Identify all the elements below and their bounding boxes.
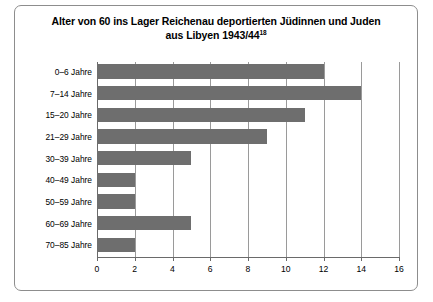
bar-40-49 — [97, 173, 135, 188]
chart-title-footnote: 18 — [259, 29, 266, 36]
bar-row — [97, 105, 399, 127]
bar-row — [97, 192, 399, 214]
bar-50-59 — [97, 194, 135, 209]
x-tickmark-12 — [324, 257, 325, 261]
bar-row — [97, 84, 399, 106]
bar-60-69 — [97, 216, 191, 231]
bar-0-6 — [97, 64, 324, 79]
bar-row — [97, 62, 399, 84]
gridline-16 — [399, 62, 400, 257]
y-axis-tick-labels: 0–6 Jahre7–14 Jahre15–20 Jahre21–29 Jahr… — [14, 62, 92, 257]
plot-area — [97, 62, 399, 257]
y-tick-label: 40–49 Jahre — [14, 175, 92, 185]
x-tick-label: 0 — [95, 264, 100, 274]
x-tickmark-14 — [361, 257, 362, 261]
x-tick-label: 12 — [319, 264, 329, 274]
x-tickmark-8 — [248, 257, 249, 261]
x-tickmark-6 — [210, 257, 211, 261]
x-tickmark-10 — [286, 257, 287, 261]
y-tick-label: 15–20 Jahre — [14, 110, 92, 120]
y-tick-label: 7–14 Jahre — [14, 89, 92, 99]
chart-title-line-2-text: aus Libyen 1943/44 — [166, 29, 260, 41]
bar-series — [97, 62, 399, 257]
bar-21-29 — [97, 129, 267, 144]
x-tick-label: 6 — [208, 264, 213, 274]
y-tick-label: 50–59 Jahre — [14, 197, 92, 207]
y-tick-label: 60–69 Jahre — [14, 219, 92, 229]
chart-title-line-1: Alter von 60 ins Lager Reichenau deporti… — [14, 14, 418, 28]
x-tick-label: 2 — [132, 264, 137, 274]
bar-7-14 — [97, 86, 361, 101]
chart-title: Alter von 60 ins Lager Reichenau deporti… — [14, 14, 418, 42]
bar-row — [97, 235, 399, 257]
bar-row — [97, 170, 399, 192]
x-tick-label: 4 — [170, 264, 175, 274]
x-tickmark-16 — [399, 257, 400, 261]
x-tickmark-0 — [97, 257, 98, 261]
bar-row — [97, 214, 399, 236]
x-tickmark-4 — [173, 257, 174, 261]
x-tick-label: 14 — [356, 264, 366, 274]
y-tick-label: 0–6 Jahre — [14, 67, 92, 77]
bar-row — [97, 149, 399, 171]
x-axis-tick-labels: 0246810121416 — [97, 257, 399, 279]
bar-70-85 — [97, 238, 135, 253]
chart-figure: Alter von 60 ins Lager Reichenau deporti… — [0, 0, 433, 302]
chart-title-line-2: aus Libyen 1943/4418 — [14, 28, 418, 42]
bar-30-39 — [97, 151, 191, 166]
x-tick-label: 10 — [281, 264, 291, 274]
x-tick-label: 8 — [246, 264, 251, 274]
y-tick-label: 21–29 Jahre — [14, 132, 92, 142]
x-tickmark-2 — [135, 257, 136, 261]
y-tick-label: 70–85 Jahre — [14, 240, 92, 250]
bar-row — [97, 127, 399, 149]
bar-15-20 — [97, 108, 305, 123]
y-tick-label: 30–39 Jahre — [14, 154, 92, 164]
x-tick-label: 16 — [394, 264, 404, 274]
